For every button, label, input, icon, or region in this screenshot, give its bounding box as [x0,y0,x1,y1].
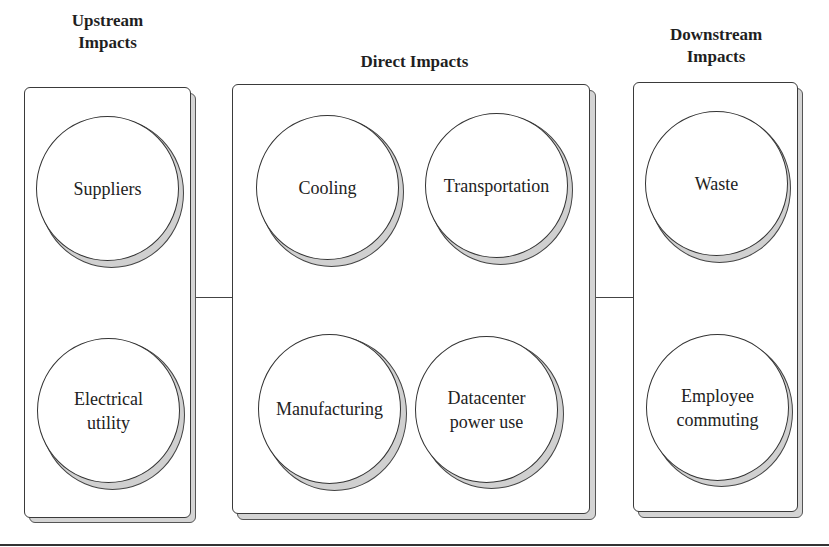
suppliers-label: Suppliers [73,177,141,201]
connector-direct-downstream [595,297,634,298]
suppliers-circle: Suppliers [36,116,179,261]
direct-heading: Direct Impacts [232,51,597,73]
transportation-label: Transportation [444,174,549,198]
downstream-heading: Downstream Impacts [630,24,802,68]
upstream-heading: Upstream Impacts [20,10,195,54]
upstream-heading-line2: Impacts [20,32,195,54]
datacenter-power-use-circle: Datacenter power use [415,336,558,483]
electrical-utility-label: Electrical utility [74,387,143,435]
downstream-heading-line2: Impacts [630,46,802,68]
bottom-divider [0,544,829,546]
upstream-heading-line1: Upstream [20,10,195,32]
manufacturing-label: Manufacturing [276,397,383,421]
cooling-circle: Cooling [256,115,399,260]
datacenter-power-use-label: Datacenter power use [448,386,526,434]
cooling-label: Cooling [298,176,356,200]
electrical-utility-circle: Electrical utility [37,338,180,483]
waste-label: Waste [695,172,739,196]
connector-upstream-direct [195,297,233,298]
direct-heading-text: Direct Impacts [232,51,597,73]
waste-circle: Waste [645,111,788,256]
employee-commuting-label: Employee commuting [677,384,759,432]
downstream-heading-line1: Downstream [630,24,802,46]
employee-commuting-circle: Employee commuting [646,334,789,481]
transportation-circle: Transportation [425,113,568,258]
manufacturing-circle: Manufacturing [258,334,401,484]
